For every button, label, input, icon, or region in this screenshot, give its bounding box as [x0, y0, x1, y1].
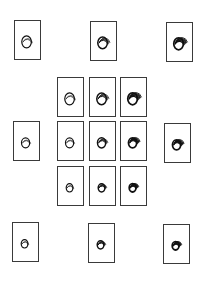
tile-grid-r3-c2 — [89, 166, 116, 206]
tile-grid-r2-c3 — [120, 121, 147, 161]
shell-icon — [121, 78, 146, 116]
tile-middle-left — [13, 121, 40, 161]
shell-icon — [167, 23, 192, 61]
shell-icon — [89, 224, 114, 262]
tile-top-left — [14, 20, 41, 60]
tile-bottom-left — [12, 222, 39, 262]
tile-grid-r1-c1 — [57, 77, 84, 117]
tile-bottom-right — [163, 224, 190, 264]
tile-top-center — [90, 21, 117, 61]
shell-icon — [91, 22, 116, 60]
shell-icon — [164, 225, 189, 263]
shell-icon — [121, 122, 146, 160]
tile-grid-r3-c1 — [57, 166, 84, 206]
shell-icon — [58, 122, 83, 160]
shell-icon — [58, 167, 83, 205]
shell-icon — [90, 78, 115, 116]
tile-grid-r3-c3 — [120, 166, 147, 206]
shell-icon — [90, 122, 115, 160]
tile-grid-r1-c3 — [120, 77, 147, 117]
shell-icon — [58, 78, 83, 116]
shell-icon — [15, 21, 40, 59]
shell-icon — [14, 122, 39, 160]
tile-grid-r1-c2 — [89, 77, 116, 117]
shell-icon — [90, 167, 115, 205]
tile-bottom-center — [88, 223, 115, 263]
tile-middle-right — [164, 123, 191, 163]
tile-grid-r2-c1 — [57, 121, 84, 161]
shell-icon — [13, 223, 38, 261]
shell-icon — [121, 167, 146, 205]
tile-top-right — [166, 22, 193, 62]
shell-icon — [165, 124, 190, 162]
tile-grid-r2-c2 — [89, 121, 116, 161]
